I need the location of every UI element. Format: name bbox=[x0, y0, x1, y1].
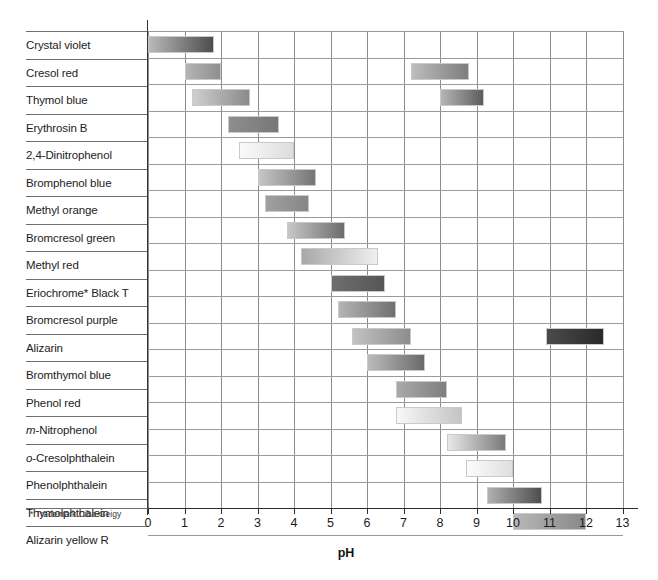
indicator-range-bar bbox=[265, 195, 309, 212]
vertical-gridline bbox=[623, 31, 624, 508]
row-gridline bbox=[148, 455, 623, 456]
row-gridline bbox=[148, 482, 623, 483]
indicator-label: o-Cresolphthalein bbox=[26, 444, 148, 472]
indicator-label: 2,4-Dinitrophenol bbox=[26, 141, 148, 169]
x-axis-tick bbox=[404, 508, 405, 514]
indicator-range-bar bbox=[239, 142, 294, 159]
indicator-range-bar bbox=[331, 275, 386, 292]
indicator-label: Eriochrome* Black T bbox=[26, 279, 148, 307]
plot-area bbox=[148, 31, 623, 508]
indicator-label: Bromcresol green bbox=[26, 224, 148, 252]
x-axis-tick bbox=[185, 508, 186, 514]
row-gridline bbox=[148, 323, 623, 324]
indicator-range-bar bbox=[367, 354, 425, 371]
x-axis-tick bbox=[258, 508, 259, 514]
x-axis-tick-label: 7 bbox=[391, 516, 417, 530]
indicator-range-bar bbox=[185, 63, 222, 80]
indicator-label: Erythrosin B bbox=[26, 114, 148, 142]
indicator-range-bar bbox=[487, 487, 542, 504]
indicator-label-column: Crystal violetCresol redThymol blueEryth… bbox=[26, 31, 148, 554]
row-gridline bbox=[148, 31, 623, 32]
x-axis-tick-label: 13 bbox=[610, 516, 636, 530]
x-axis-tick bbox=[294, 508, 295, 514]
indicator-label: Phenol red bbox=[26, 389, 148, 417]
indicator-range-bar bbox=[546, 328, 604, 345]
row-gridline bbox=[148, 376, 623, 377]
indicator-label: Methyl orange bbox=[26, 196, 148, 224]
x-axis-title: pH bbox=[0, 546, 658, 560]
x-axis-tick-label: 8 bbox=[427, 516, 453, 530]
indicator-label: Thymol blue bbox=[26, 86, 148, 114]
x-axis-tick-label: 12 bbox=[573, 516, 599, 530]
x-axis-tick-label: 5 bbox=[318, 516, 344, 530]
row-gridline bbox=[148, 243, 623, 244]
x-axis-tick bbox=[221, 508, 222, 514]
indicator-range-bar bbox=[228, 116, 279, 133]
indicator-range-bar bbox=[148, 36, 214, 53]
row-gridline bbox=[148, 270, 623, 271]
trademark-footnote: * Trademark Ciba-Geigy bbox=[30, 509, 121, 519]
indicator-label: Methyl red bbox=[26, 251, 148, 279]
row-gridline bbox=[148, 296, 623, 297]
indicator-label: Bromphenol blue bbox=[26, 169, 148, 197]
indicator-label: Alizarin bbox=[26, 334, 148, 362]
indicator-range-bar bbox=[352, 328, 410, 345]
indicator-range-bar bbox=[447, 434, 505, 451]
indicator-range-bar bbox=[396, 407, 462, 424]
x-axis-tick bbox=[550, 508, 551, 514]
indicator-label: Phenolphthalein bbox=[26, 471, 148, 499]
indicator-label: Crystal violet bbox=[26, 31, 148, 59]
indicator-label: Bromthymol blue bbox=[26, 361, 148, 389]
x-axis-tick-label: 4 bbox=[281, 516, 307, 530]
row-gridline bbox=[148, 190, 623, 191]
indicator-range-bar bbox=[440, 89, 484, 106]
indicator-label: Bromcresol purple bbox=[26, 306, 148, 334]
x-axis-tick bbox=[477, 508, 478, 514]
row-gridline bbox=[148, 535, 623, 536]
x-axis-tick bbox=[331, 508, 332, 514]
x-axis-tick-label: 1 bbox=[172, 516, 198, 530]
x-axis-tick-label: 0 bbox=[135, 516, 161, 530]
row-gridline bbox=[148, 84, 623, 85]
row-gridline bbox=[148, 137, 623, 138]
x-axis-tick bbox=[440, 508, 441, 514]
indicator-label: Cresol red bbox=[26, 59, 148, 87]
x-axis-tick-label: 10 bbox=[500, 516, 526, 530]
indicator-range-bar bbox=[396, 381, 447, 398]
x-axis-tick bbox=[623, 508, 624, 514]
indicator-range-bar bbox=[338, 301, 396, 318]
indicator-range-bar bbox=[287, 222, 345, 239]
indicator-label: m-Nitrophenol bbox=[26, 416, 148, 444]
indicator-range-bar bbox=[258, 169, 316, 186]
ph-indicator-chart: Crystal violetCresol redThymol blueEryth… bbox=[0, 0, 658, 580]
row-gridline bbox=[148, 164, 623, 165]
indicator-range-bar bbox=[466, 460, 513, 477]
row-gridline bbox=[148, 349, 623, 350]
x-axis-tick bbox=[513, 508, 514, 514]
row-gridline bbox=[148, 402, 623, 403]
x-axis-tick-label: 2 bbox=[208, 516, 234, 530]
indicator-range-bar bbox=[301, 248, 378, 265]
x-axis-tick bbox=[367, 508, 368, 514]
x-axis-tick-label: 11 bbox=[537, 516, 563, 530]
x-axis-tick-label: 3 bbox=[245, 516, 271, 530]
row-gridline bbox=[148, 217, 623, 218]
x-axis-tick-label: 6 bbox=[354, 516, 380, 530]
x-axis-tick bbox=[586, 508, 587, 514]
indicator-range-bar bbox=[192, 89, 250, 106]
indicator-range-bar bbox=[411, 63, 469, 80]
row-gridline bbox=[148, 58, 623, 59]
x-axis-title-text: pH bbox=[338, 546, 355, 560]
x-axis-tick bbox=[148, 508, 149, 514]
row-gridline bbox=[148, 429, 623, 430]
row-gridline bbox=[148, 111, 623, 112]
x-axis-tick-label: 9 bbox=[464, 516, 490, 530]
